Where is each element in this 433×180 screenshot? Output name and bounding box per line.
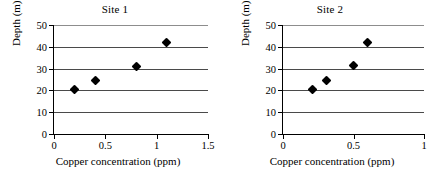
chart-panel-site-2: Site 2 Depth (m) 0102030405000.51 Copper…: [217, 0, 433, 180]
x-axis-tick-label: 0.5: [347, 140, 360, 151]
two-panel-scatter-figure: Site 1 Depth (m) 0102030405000.511.5 Cop…: [0, 0, 433, 180]
plot-area: 0102030405000.511.5: [53, 25, 208, 134]
x-axis-tick: [424, 134, 425, 139]
y-axis-tick: [49, 69, 54, 70]
y-axis-title: Depth (m): [239, 0, 251, 46]
x-axis-tick: [283, 134, 284, 139]
y-axis-tick-label: 50: [266, 20, 277, 31]
y-axis-tick: [49, 90, 54, 91]
data-point-marker: [308, 85, 318, 95]
y-axis-tick-label: 10: [37, 107, 48, 118]
gridline: [283, 47, 424, 48]
x-axis-tick-label: 0.5: [99, 140, 112, 151]
x-axis-tick: [54, 134, 55, 139]
y-axis-title: Depth (m): [10, 0, 22, 46]
x-axis-tick-label: 1: [421, 140, 426, 151]
gridline: [54, 112, 208, 113]
x-axis-tick: [354, 134, 355, 139]
chart-panel-site-1: Site 1 Depth (m) 0102030405000.511.5 Cop…: [0, 0, 216, 180]
gridline: [54, 134, 208, 135]
chart-title: Site 1: [0, 3, 216, 15]
gridline: [283, 90, 424, 91]
gridline: [283, 112, 424, 113]
y-axis-tick: [49, 25, 54, 26]
y-axis-tick: [278, 47, 283, 48]
x-axis-tick-label: 0: [280, 140, 285, 151]
x-axis-title: Copper concentration (ppm): [0, 155, 216, 167]
y-axis-tick-label: 40: [266, 41, 277, 52]
y-axis-tick-label: 0: [271, 129, 276, 140]
x-axis-tick: [105, 134, 106, 139]
x-axis-title: Copper concentration (ppm): [217, 155, 433, 167]
plot-area: 0102030405000.51: [282, 25, 424, 134]
y-axis-tick: [278, 69, 283, 70]
y-axis-tick-label: 20: [266, 85, 277, 96]
data-point-marker: [70, 85, 80, 95]
gridline: [54, 69, 208, 70]
y-axis-tick-label: 0: [42, 129, 47, 140]
x-axis-tick-label: 1.5: [201, 140, 214, 151]
x-axis-tick-label: 1: [154, 140, 159, 151]
gridline: [54, 47, 208, 48]
gridline: [283, 25, 424, 26]
y-axis-tick-label: 50: [37, 20, 48, 31]
y-axis-tick-label: 30: [37, 63, 48, 74]
x-axis-tick: [157, 134, 158, 139]
y-axis-tick: [278, 90, 283, 91]
data-point-marker: [90, 75, 100, 85]
gridline: [54, 25, 208, 26]
data-point-marker: [322, 76, 332, 86]
y-axis-tick-label: 10: [266, 107, 277, 118]
y-axis-tick: [278, 112, 283, 113]
y-axis-tick: [278, 25, 283, 26]
x-axis-tick: [208, 134, 209, 139]
y-axis-tick: [49, 112, 54, 113]
y-axis-tick-label: 20: [37, 85, 48, 96]
x-axis-tick-label: 0: [51, 140, 56, 151]
y-axis-tick: [49, 47, 54, 48]
y-axis-tick-label: 40: [37, 41, 48, 52]
data-point-marker: [131, 61, 141, 71]
y-axis-tick-label: 30: [266, 63, 277, 74]
